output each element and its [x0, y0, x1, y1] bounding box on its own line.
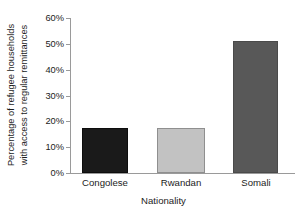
y-tick-label-40: 40% [45, 65, 64, 75]
x-tick-label-rwandan: Rwandan [161, 177, 202, 188]
y-axis-tick-labels: 60% 50% 40% 30% 20% 10% 0% [34, 0, 67, 220]
y-tick-label-10: 10% [45, 142, 64, 152]
bar-rwandan[interactable] [157, 128, 205, 173]
y-axis-title-text: Percentage of refugee households with ac… [5, 24, 30, 166]
y-tick-label-0: 0% [51, 168, 64, 178]
x-axis-title-text: Nationality [141, 195, 186, 206]
x-tick-label-somali: Somali [241, 177, 270, 188]
plot-area [70, 18, 295, 173]
x-axis-title: Nationality [0, 195, 303, 206]
y-tick-mark-60 [66, 18, 70, 19]
y-tick-label-60: 60% [45, 13, 64, 23]
y-tick-label-50: 50% [45, 39, 64, 49]
y-tick-label-20: 20% [45, 116, 64, 126]
bar-somali[interactable] [233, 41, 278, 173]
y-tick-mark-10 [66, 147, 70, 148]
x-tick-label-congolese: Congolese [82, 177, 128, 188]
x-axis-spine [70, 173, 295, 174]
y-axis-title-line-2: with access to regular remittances [17, 24, 30, 166]
bar-chart-figure: Percentage of refugee households with ac… [0, 0, 303, 220]
y-tick-mark-20 [66, 121, 70, 122]
y-axis-title-line-1: Percentage of refugee households [5, 24, 18, 166]
y-tick-mark-40 [66, 70, 70, 71]
y-tick-mark-50 [66, 44, 70, 45]
y-axis-title: Percentage of refugee households with ac… [0, 0, 34, 190]
y-tick-mark-30 [66, 96, 70, 97]
y-tick-mark-0 [66, 173, 70, 174]
bar-congolese[interactable] [82, 128, 128, 173]
y-tick-label-30: 30% [45, 91, 64, 101]
y-axis-spine [70, 18, 71, 173]
